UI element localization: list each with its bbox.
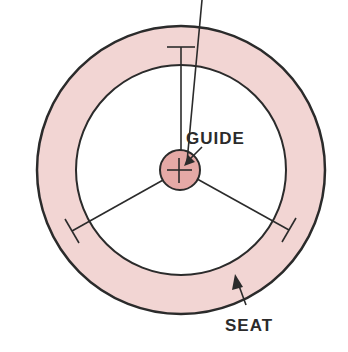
seat-label: SEAT	[225, 316, 273, 335]
guide-label: GUIDE	[186, 129, 245, 148]
valve-seat-guide-diagram: GUIDE SEAT	[0, 0, 348, 352]
